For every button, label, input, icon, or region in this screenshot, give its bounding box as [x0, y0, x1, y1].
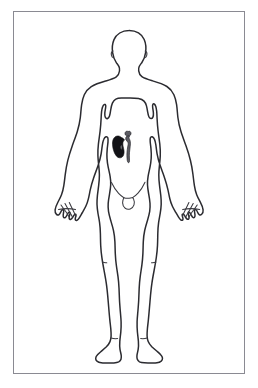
kidney-icon: [112, 136, 124, 158]
pubic-crease-left: [124, 198, 133, 199]
human-body-outline: [55, 30, 203, 363]
groin-detail: [112, 182, 146, 209]
body-figure-canvas: [0, 0, 258, 388]
ureter-icon: [126, 136, 131, 163]
renal-hilum-icon: [121, 145, 122, 149]
groin-outline-path: [112, 182, 146, 209]
body-silhouette-path: [55, 30, 203, 363]
renal-pelvis-icon: [125, 131, 131, 136]
kidney-and-ureter-highlight: [112, 131, 131, 163]
anatomical-body-diagram: [0, 0, 258, 388]
